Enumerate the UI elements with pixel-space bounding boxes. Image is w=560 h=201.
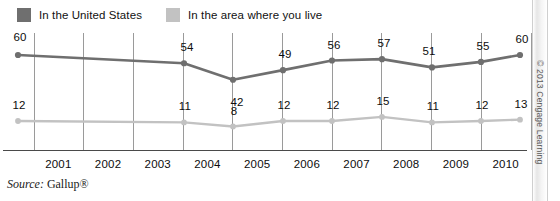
source-name: Gallup®: [47, 177, 89, 191]
data-point-label: 60: [515, 33, 528, 45]
data-point-marker: [15, 52, 21, 58]
data-point-label: 8: [231, 105, 238, 117]
x-axis-label: 2007: [343, 158, 369, 170]
data-point-marker: [379, 56, 385, 62]
x-axis-label: 2010: [492, 158, 518, 170]
data-point-marker: [280, 118, 286, 124]
data-point-marker: [429, 64, 435, 70]
data-point-label: 54: [180, 41, 193, 53]
data-point-label: 12: [326, 99, 339, 111]
series-line: [18, 117, 520, 127]
data-point-label: 56: [327, 39, 340, 51]
data-point-marker: [280, 67, 286, 73]
data-point-label: 55: [476, 40, 489, 52]
series-line: [18, 55, 520, 80]
data-point-marker: [517, 52, 523, 58]
chart-figure: In the United States In the area where y…: [0, 0, 560, 201]
data-point-marker: [181, 60, 187, 66]
data-point-marker: [181, 119, 187, 125]
data-point-marker: [329, 118, 335, 124]
data-point-marker: [517, 117, 523, 123]
x-axis-label: 2002: [95, 158, 121, 170]
data-point-marker: [478, 118, 484, 124]
x-axis-label: 2006: [294, 158, 320, 170]
x-axis-label: 2003: [145, 158, 171, 170]
data-point-label: 60: [13, 31, 26, 43]
credit-text: © 2013 Cengage Learning: [535, 60, 545, 180]
x-axis-label: 2004: [194, 158, 220, 170]
data-point-label: 11: [179, 100, 191, 112]
data-point-marker: [230, 124, 236, 130]
data-point-marker: [15, 118, 21, 124]
data-point-label: 11: [427, 100, 439, 112]
data-point-marker: [429, 119, 435, 125]
x-axis-label: 2009: [443, 158, 469, 170]
data-point-label: 12: [475, 99, 488, 111]
data-point-label: 13: [514, 98, 527, 110]
data-point-marker: [379, 114, 385, 120]
data-point-label: 12: [277, 99, 290, 111]
data-point-marker: [478, 59, 484, 65]
data-point-marker: [230, 77, 236, 83]
data-point-label: 57: [377, 37, 390, 49]
x-axis-label: 2001: [45, 158, 71, 170]
data-point-label: 15: [376, 95, 389, 107]
x-axis-label: 2005: [244, 158, 270, 170]
data-point-marker: [329, 57, 335, 63]
x-axis-label: 2008: [393, 158, 419, 170]
source-prefix: Source:: [7, 177, 44, 191]
data-point-label: 49: [278, 48, 291, 60]
data-point-label: 51: [422, 45, 435, 57]
data-point-label: 12: [12, 99, 25, 111]
source-note: Source: Gallup®: [7, 177, 89, 192]
